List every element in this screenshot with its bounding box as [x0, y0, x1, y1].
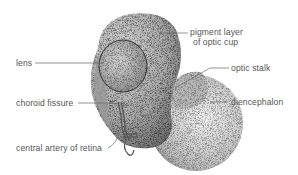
- label-optic-stalk: optic stalk: [231, 63, 270, 73]
- label-pigment-layer-line2: of optic cup: [193, 37, 238, 47]
- label-lens: lens: [16, 58, 32, 68]
- label-pigment-layer-line1: pigment layer: [190, 27, 243, 37]
- label-central-artery-of-retina: central artery of retina: [16, 143, 102, 153]
- label-choroid-fissure: choroid fissure: [16, 98, 73, 108]
- lens-shape: [99, 40, 147, 92]
- label-diencephalon: diencephalon: [231, 97, 283, 107]
- optic-cup-diagram: lens pigment layer of optic cup optic st…: [0, 0, 298, 175]
